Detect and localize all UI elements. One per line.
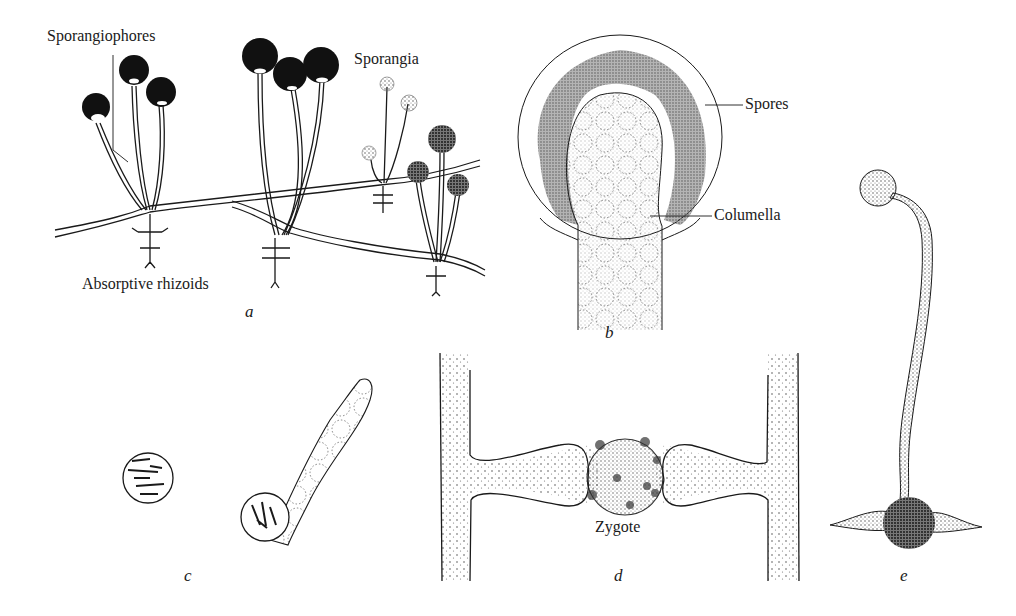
label-spores: Spores (745, 95, 789, 113)
panel-c-spores (123, 379, 372, 545)
label-columella: Columella (714, 206, 781, 224)
label-sporangia: Sporangia (354, 50, 419, 68)
label-zygote: Zygote (595, 518, 640, 536)
panel-letter-e: e (900, 566, 908, 586)
panel-letter-a: a (245, 302, 254, 322)
panel-b-sporangium-section (518, 35, 743, 330)
panel-d-conjugation (440, 353, 799, 581)
label-sporangiophores: Sporangiophores (47, 27, 155, 45)
figure-illustration (0, 0, 1016, 616)
panel-e-zygospore-germination (830, 170, 982, 549)
panel-letter-d: d (614, 566, 623, 586)
panel-letter-c: c (184, 566, 192, 586)
label-absorptive-rhizoids: Absorptive rhizoids (82, 275, 209, 293)
panel-letter-b: b (605, 323, 614, 343)
